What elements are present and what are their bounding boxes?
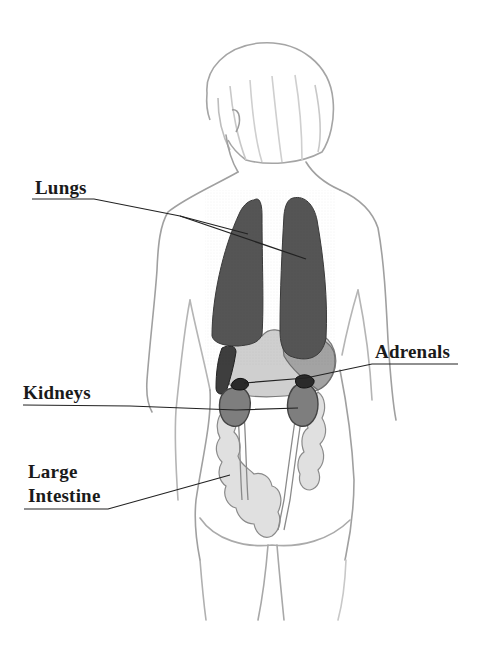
- anatomy-figure: [0, 0, 480, 653]
- head-hair: [207, 43, 334, 164]
- label-kidneys: Kidneys: [23, 383, 91, 403]
- kidneys-leader: [23, 405, 298, 410]
- label-large-intestine-line2: Intestine: [28, 484, 101, 508]
- label-large-intestine-line1: Large: [28, 460, 101, 484]
- left-adrenal: [231, 378, 248, 390]
- label-large-intestine: Large Intestine: [28, 460, 101, 508]
- left-kidney: [220, 387, 251, 426]
- label-lungs: Lungs: [35, 178, 87, 198]
- label-adrenals: Adrenals: [375, 342, 450, 362]
- lungs: [205, 190, 335, 365]
- right-kidney: [288, 384, 319, 427]
- ascending-colon: [216, 410, 281, 537]
